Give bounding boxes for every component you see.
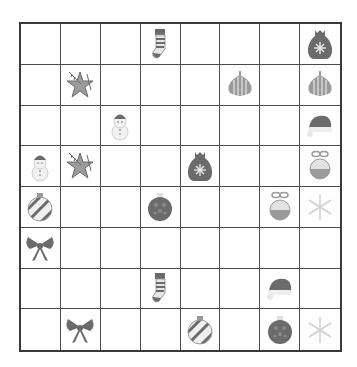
board-cell-r5-c6[interactable]: [260, 228, 300, 269]
sack-icon: [183, 149, 217, 183]
board-cell-r4-c3[interactable]: [141, 187, 181, 228]
santa-hat-icon: [303, 108, 337, 142]
board-cell-r3-c7[interactable]: [300, 146, 340, 187]
board-cell-r0-c3[interactable]: [141, 24, 181, 65]
board-cell-r2-c6[interactable]: [260, 106, 300, 147]
striped-bauble-icon: [23, 190, 57, 224]
board-cell-r1-c2[interactable]: [101, 65, 141, 106]
board-cell-r4-c2[interactable]: [101, 187, 141, 228]
board-cell-r6-c7[interactable]: [300, 269, 340, 310]
board-cell-r1-c7[interactable]: [300, 65, 340, 106]
board-cell-r2-c1[interactable]: [61, 106, 101, 147]
board-cell-r7-c7[interactable]: [300, 309, 340, 350]
game-board: [19, 22, 342, 352]
stocking-icon: [143, 271, 177, 305]
board-cell-r3-c3[interactable]: [141, 146, 181, 187]
board-cell-r5-c4[interactable]: [181, 228, 221, 269]
board-cell-r1-c6[interactable]: [260, 65, 300, 106]
snowflake-icon: [303, 313, 337, 347]
stocking-icon: [143, 27, 177, 61]
board-cell-r5-c5[interactable]: [220, 228, 260, 269]
board-cell-r4-c7[interactable]: [300, 187, 340, 228]
board-cell-r2-c7[interactable]: [300, 106, 340, 147]
board-cell-r1-c1[interactable]: [61, 65, 101, 106]
board-cell-r2-c5[interactable]: [220, 106, 260, 147]
board-cell-r5-c3[interactable]: [141, 228, 181, 269]
board-cell-r0-c1[interactable]: [61, 24, 101, 65]
board-cell-r0-c6[interactable]: [260, 24, 300, 65]
board-cell-r1-c5[interactable]: [220, 65, 260, 106]
onion-ornament-icon: [303, 68, 337, 102]
board-cell-r7-c0[interactable]: [21, 309, 61, 350]
board-cell-r7-c6[interactable]: [260, 309, 300, 350]
board-cell-r5-c1[interactable]: [61, 228, 101, 269]
board-cell-r1-c3[interactable]: [141, 65, 181, 106]
board-cell-r6-c4[interactable]: [181, 269, 221, 310]
board-cell-r7-c3[interactable]: [141, 309, 181, 350]
board-cell-r3-c2[interactable]: [101, 146, 141, 187]
board-cell-r3-c5[interactable]: [220, 146, 260, 187]
bow-bauble-icon: [263, 190, 297, 224]
board-cell-r6-c0[interactable]: [21, 269, 61, 310]
board-cell-r7-c1[interactable]: [61, 309, 101, 350]
board-cell-r0-c7[interactable]: [300, 24, 340, 65]
board-cell-r4-c0[interactable]: [21, 187, 61, 228]
board-cell-r3-c4[interactable]: [181, 146, 221, 187]
board-cell-r6-c6[interactable]: [260, 269, 300, 310]
dotted-bauble-icon: [143, 190, 177, 224]
onion-ornament-icon: [223, 68, 257, 102]
board-cell-r3-c1[interactable]: [61, 146, 101, 187]
board-cell-r7-c2[interactable]: [101, 309, 141, 350]
snowman-icon: [103, 108, 137, 142]
santa-hat-icon: [263, 271, 297, 305]
board-cell-r5-c0[interactable]: [21, 228, 61, 269]
snowflake-icon: [303, 190, 337, 224]
board-cell-r7-c4[interactable]: [181, 309, 221, 350]
board-cell-r2-c0[interactable]: [21, 106, 61, 147]
board-cell-r4-c1[interactable]: [61, 187, 101, 228]
board-cell-r6-c3[interactable]: [141, 269, 181, 310]
board-cell-r0-c2[interactable]: [101, 24, 141, 65]
board-cell-r0-c4[interactable]: [181, 24, 221, 65]
pine-star-icon: [63, 149, 97, 183]
board-cell-r3-c0[interactable]: [21, 146, 61, 187]
dotted-bauble-icon: [263, 313, 297, 347]
board-cell-r7-c5[interactable]: [220, 309, 260, 350]
board-cell-r5-c2[interactable]: [101, 228, 141, 269]
board-cell-r5-c7[interactable]: [300, 228, 340, 269]
board-cell-r4-c6[interactable]: [260, 187, 300, 228]
board-cell-r1-c0[interactable]: [21, 65, 61, 106]
board-cell-r1-c4[interactable]: [181, 65, 221, 106]
board-cell-r4-c4[interactable]: [181, 187, 221, 228]
pine-star-icon: [63, 68, 97, 102]
board-cell-r3-c6[interactable]: [260, 146, 300, 187]
board-cell-r6-c5[interactable]: [220, 269, 260, 310]
sack-icon: [303, 27, 337, 61]
board-cell-r6-c1[interactable]: [61, 269, 101, 310]
board-cell-r4-c5[interactable]: [220, 187, 260, 228]
board-cell-r0-c0[interactable]: [21, 24, 61, 65]
board-cell-r6-c2[interactable]: [101, 269, 141, 310]
board-cell-r2-c3[interactable]: [141, 106, 181, 147]
board-cell-r2-c2[interactable]: [101, 106, 141, 147]
bow-icon: [63, 313, 97, 347]
board-cell-r2-c4[interactable]: [181, 106, 221, 147]
striped-bauble-icon: [183, 313, 217, 347]
bow-bauble-icon: [303, 149, 337, 183]
snowman-icon: [23, 149, 57, 183]
bow-icon: [23, 231, 57, 265]
board-cell-r0-c5[interactable]: [220, 24, 260, 65]
